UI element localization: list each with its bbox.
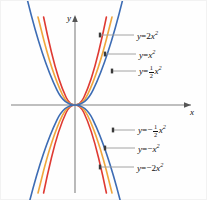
- callout-label-y-eq-neg2x2: y=−2x2: [137, 161, 163, 173]
- lbl6-exp: 2: [160, 161, 163, 168]
- callout-label-y-eq-negx2: y=−x2: [138, 142, 160, 154]
- y-axis-arrowhead: [72, 15, 78, 22]
- curve-y-eq-2x2: [75, 17, 106, 105]
- curve-y-eq-x2: [75, 17, 112, 105]
- callout-label-y-eq-2x2: y=2x2: [137, 29, 158, 41]
- lbl4-sign: −: [147, 125, 152, 135]
- y-axis-label: y: [67, 13, 71, 23]
- fraction-one-half-neg: 12: [153, 124, 158, 138]
- curve-y-eq-x2-left: [38, 17, 75, 105]
- x-axis-label: x: [190, 107, 194, 117]
- callout-label-y-eq-x2: y=x2: [139, 48, 155, 60]
- curve-y-eq-2x2-left: [44, 17, 75, 105]
- curve-y-eq-neg-half-x2: [75, 105, 123, 200]
- curve-y-eq-neg2x2-left: [44, 105, 75, 193]
- parabola-family-figure: y x y=2x2 y=x2 y=12x2 y=−12x2 y=−x2 y=−2…: [0, 0, 207, 200]
- curve-y-eq-neg-half-x2-left: [27, 105, 75, 200]
- curve-y-eq-negx2-left: [38, 105, 75, 193]
- lbl3-exp: 2: [159, 64, 162, 71]
- lbl3-eq: =: [143, 66, 148, 76]
- lbl5-exp: 2: [157, 142, 160, 149]
- lbl4-exp: 2: [163, 123, 166, 130]
- graph-canvas: [1, 1, 207, 200]
- lbl2-exp: 2: [152, 48, 155, 55]
- lbl4-den: 2: [153, 131, 158, 139]
- callout-label-y-eq-neg-half-x2: y=−12x2: [138, 123, 166, 138]
- curve-y-eq-neg2x2: [75, 105, 106, 193]
- callout-label-y-eq-half-x2: y=12x2: [139, 64, 162, 79]
- lbl1-exp: 2: [155, 29, 158, 36]
- curve-y-eq-negx2: [75, 105, 112, 193]
